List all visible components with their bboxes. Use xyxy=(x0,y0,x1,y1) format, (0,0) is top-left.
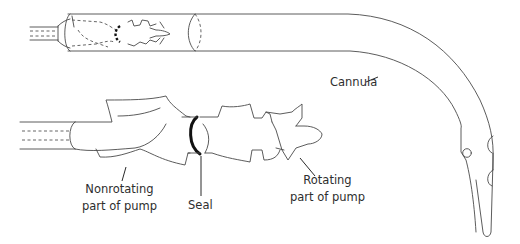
nonrotating-label-line1: Nonrotating xyxy=(82,181,157,198)
cannula-label: Cannula xyxy=(330,74,377,91)
seal-label: Seal xyxy=(188,197,213,214)
rotating-label-line1: Rotating xyxy=(290,172,365,189)
nonrotating-label: Nonrotating part of pump xyxy=(82,181,157,215)
nonrotating-label-line2: part of pump xyxy=(82,198,157,215)
rotating-label: Rotating part of pump xyxy=(290,172,365,206)
diagram-drawing xyxy=(0,0,520,244)
enlarged-pump xyxy=(20,96,322,165)
rotating-label-line2: part of pump xyxy=(290,189,365,206)
inset-pump xyxy=(30,14,201,51)
pump-cannula-diagram: Cannula Nonrotating part of pump Seal Ro… xyxy=(0,0,520,244)
nonrotating-leader xyxy=(122,167,126,181)
